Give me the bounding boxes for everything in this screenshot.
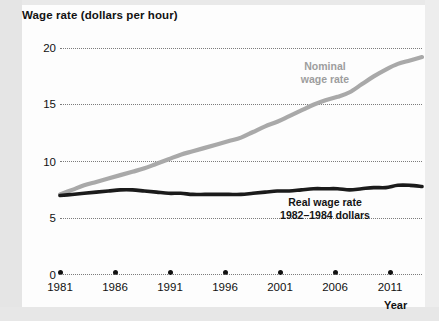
nominal-label-line2: wage rate bbox=[290, 73, 360, 86]
x-axis-title: Year bbox=[384, 299, 407, 311]
x-axis-tick-1996: 1996 bbox=[202, 281, 248, 293]
series-lines bbox=[60, 48, 422, 275]
plot-area bbox=[60, 48, 422, 275]
chart-left-margin bbox=[0, 0, 22, 321]
nominal-wage-rate-line bbox=[60, 57, 422, 194]
real-wage-rate-line bbox=[60, 185, 422, 195]
x-axis-tick-1986: 1986 bbox=[92, 281, 138, 293]
nominal-wage-rate-label: Nominal wage rate bbox=[290, 60, 360, 86]
real-label-line2: 1982–1984 dollars bbox=[264, 209, 386, 222]
x-axis-tick-1991: 1991 bbox=[147, 281, 193, 293]
y-axis-tick-0: 0 bbox=[22, 269, 56, 281]
real-label-line1: Real wage rate bbox=[264, 196, 386, 209]
y-axis-tick-20: 20 bbox=[22, 42, 56, 54]
x-axis-tick-2001: 2001 bbox=[257, 281, 303, 293]
x-axis-tick-2006: 2006 bbox=[312, 281, 358, 293]
y-axis-tick-15: 15 bbox=[22, 98, 56, 110]
chart-right-margin bbox=[425, 0, 439, 321]
chart-title: Wage rate (dollars per hour) bbox=[22, 9, 178, 21]
y-axis-tick-5: 5 bbox=[22, 212, 56, 224]
nominal-label-line1: Nominal bbox=[290, 60, 360, 73]
wage-rate-line-chart: Wage rate (dollars per hour) 20 15 10 5 … bbox=[0, 0, 439, 321]
x-axis-tick-1981: 1981 bbox=[37, 281, 83, 293]
real-wage-rate-label: Real wage rate 1982–1984 dollars bbox=[264, 196, 386, 222]
y-axis-tick-10: 10 bbox=[22, 156, 56, 168]
x-axis-tick-2011: 2011 bbox=[367, 281, 413, 293]
chart-bottom-margin bbox=[0, 307, 439, 321]
